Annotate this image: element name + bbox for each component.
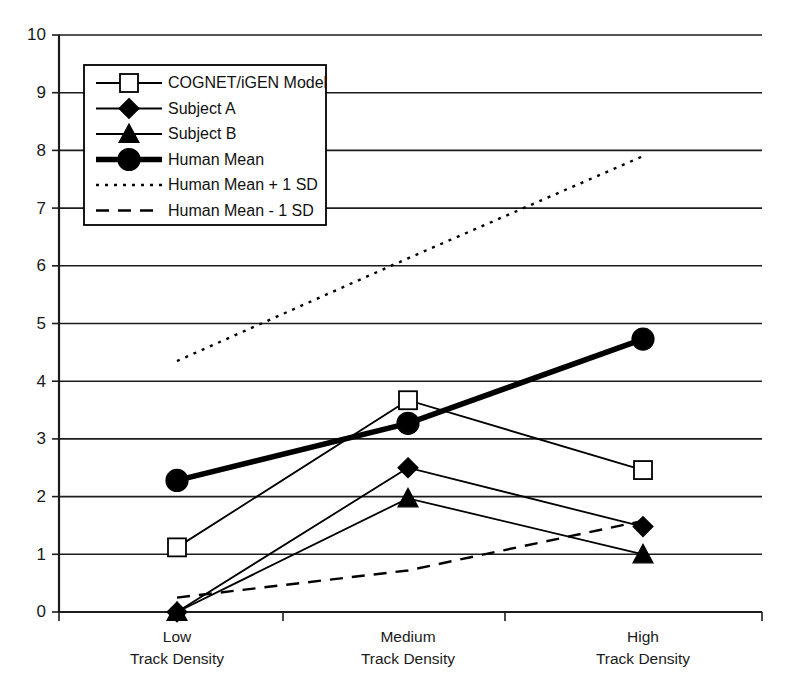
x-category-sublabel-0: Track Density — [130, 650, 224, 667]
legend-label: COGNET/iGEN Model — [168, 74, 327, 91]
data-point-1-2 — [633, 517, 653, 537]
series-line-5 — [177, 521, 643, 598]
x-category-sublabel-1: Track Density — [361, 650, 455, 667]
y-tick-label: 10 — [27, 25, 46, 44]
data-point-3-2 — [632, 328, 654, 350]
legend-label: Human Mean - 1 SD — [168, 202, 314, 219]
legend-item-3[interactable]: Human Mean — [96, 149, 264, 171]
x-category-label-2: High — [627, 628, 659, 645]
legend-label: Human Mean + 1 SD — [168, 176, 318, 193]
data-markers — [166, 328, 654, 622]
legend-label: Subject B — [168, 125, 236, 142]
data-point-3-0 — [166, 469, 188, 491]
y-tick-label: 9 — [37, 83, 46, 102]
data-point-0-1 — [399, 391, 417, 409]
x-category-sublabel-2: Track Density — [596, 650, 690, 667]
legend-item-0[interactable]: COGNET/iGEN Model — [96, 74, 327, 92]
legend-label: Subject A — [168, 100, 236, 117]
x-axis-labels: LowTrack DensityMediumTrack DensityHighT… — [130, 628, 690, 667]
y-tick-label: 6 — [37, 256, 46, 275]
y-tick-label: 7 — [37, 199, 46, 218]
data-point-legend-3 — [118, 149, 140, 171]
y-axis-ticks: 012345678910 — [27, 25, 60, 621]
data-point-2-1 — [398, 488, 418, 507]
x-axis-ticks — [59, 612, 762, 621]
chart-legend[interactable]: COGNET/iGEN ModelSubject ASubject BHuman… — [84, 65, 327, 225]
x-category-label-0: Low — [163, 628, 192, 645]
line-chart: 012345678910 LowTrack DensityMediumTrack… — [0, 0, 786, 693]
y-tick-label: 0 — [37, 602, 46, 621]
series-line-2 — [177, 498, 643, 612]
y-tick-label: 8 — [37, 141, 46, 160]
y-tick-label: 2 — [37, 487, 46, 506]
data-point-1-1 — [398, 458, 418, 478]
data-point-0-2 — [634, 461, 652, 479]
y-tick-label: 5 — [37, 314, 46, 333]
y-tick-label: 4 — [37, 372, 46, 391]
chart-container: 012345678910 LowTrack DensityMediumTrack… — [0, 0, 786, 693]
y-tick-label: 3 — [37, 429, 46, 448]
data-point-0-0 — [168, 538, 186, 556]
x-category-label-1: Medium — [380, 628, 435, 645]
y-tick-label: 1 — [37, 545, 46, 564]
data-point-3-1 — [397, 412, 419, 434]
legend-label: Human Mean — [168, 151, 264, 168]
data-point-legend-0 — [120, 74, 138, 92]
